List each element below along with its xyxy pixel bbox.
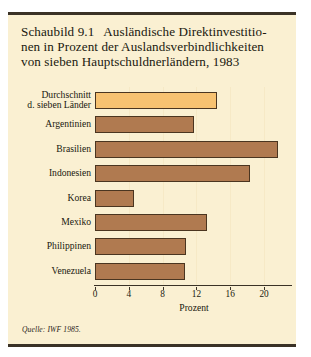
source-note: Quelle: IWF 1985.: [22, 325, 81, 334]
figure-title-line-2: nen in Prozent der Auslandsverbindlichke…: [21, 39, 289, 54]
bar: [95, 165, 250, 182]
bar: [95, 214, 207, 231]
bar-category-label: Mexiko: [0, 217, 91, 227]
x-tick-label: 16: [215, 289, 245, 299]
bar-row: Korea: [8, 189, 296, 214]
bar: [95, 116, 194, 133]
bar-row: Venezuela: [8, 262, 296, 287]
bar-category-label: Indonesien: [0, 168, 91, 178]
plot-area: Durchschnittd. sieben LänderArgentinienB…: [8, 87, 296, 302]
figure-title-line-3: von sieben Hauptschuldnerländern, 1983: [21, 54, 289, 69]
bar-category-label: Durchschnittd. sieben Länder: [0, 90, 91, 110]
x-tick-label: 0: [80, 289, 110, 299]
bar-category-label: Korea: [0, 193, 91, 203]
figure-title: Schaubild 9.1Ausländische Direktinvestit…: [21, 24, 289, 70]
bar: [95, 141, 278, 158]
figure-number: Schaubild 9.1: [21, 24, 94, 39]
x-axis-title: Prozent: [95, 302, 293, 313]
bar: [95, 92, 217, 109]
bar-row: Argentinien: [8, 115, 296, 140]
bar-category-label: Venezuela: [0, 266, 91, 276]
bar-row: Indonesien: [8, 164, 296, 189]
x-tick-label: 4: [114, 289, 144, 299]
bar-category-label-line-2: d. sieben Länder: [0, 100, 91, 110]
x-tick-label: 20: [249, 289, 279, 299]
bar-row: Philippinen: [8, 237, 296, 262]
bar-row: Brasilien: [8, 140, 296, 165]
bar: [95, 190, 134, 207]
bar-row: Mexiko: [8, 213, 296, 238]
x-tick-label: 8: [148, 289, 178, 299]
bar-category-label: Argentinien: [0, 119, 91, 129]
bar-category-label: Brasilien: [0, 144, 91, 154]
bar: [95, 263, 185, 280]
x-axis-line: [94, 285, 292, 286]
bar: [95, 238, 186, 255]
bar-category-label: Philippinen: [0, 241, 91, 251]
figure-frame: Schaubild 9.1Ausländische Direktinvestit…: [8, 12, 296, 347]
x-tick-label: 12: [181, 289, 211, 299]
bar-row: Durchschnittd. sieben Länder: [8, 91, 296, 116]
figure-title-line-1: Ausländische Direktinvestitio-: [103, 24, 266, 39]
